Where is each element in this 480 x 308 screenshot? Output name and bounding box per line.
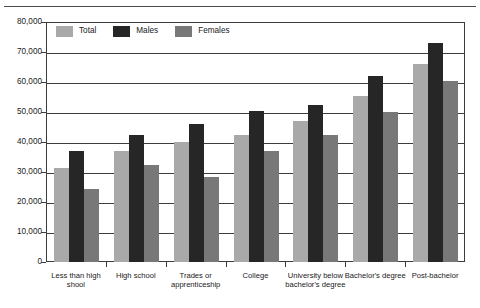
legend-swatch-icon — [56, 26, 73, 37]
legend-label: Males — [136, 27, 158, 35]
bar-males — [308, 105, 323, 263]
x-axis-tick-mark — [285, 262, 286, 267]
bar-females — [144, 165, 159, 263]
bar-total — [353, 96, 368, 263]
bar-females — [383, 112, 398, 262]
x-axis-tick-mark — [166, 262, 167, 267]
x-axis-tick-label: Less than high shool — [43, 271, 109, 290]
y-axis-tick-label: 80,000 — [0, 18, 42, 26]
x-axis-tick-label: University below bachelor's degree — [282, 271, 348, 290]
bar-group — [345, 22, 405, 262]
bar-females — [84, 189, 99, 263]
legend-item-males: Males — [113, 26, 158, 37]
bar-group — [166, 22, 226, 262]
bar-males — [189, 124, 204, 262]
bar-group — [285, 22, 345, 262]
bar-group — [106, 22, 166, 262]
bars-layer — [46, 22, 465, 262]
x-axis-tick-mark — [405, 262, 406, 267]
bar-total — [293, 121, 308, 262]
bar-males — [129, 135, 144, 263]
bar-total — [174, 142, 189, 262]
bar-females — [323, 135, 338, 263]
header-divider — [4, 6, 476, 7]
bar-total — [234, 135, 249, 263]
y-axis-tick-label: 30,000 — [0, 168, 42, 176]
bar-group — [46, 22, 106, 262]
y-axis-tick-label: 10,000 — [0, 228, 42, 236]
x-axis-tick-label: College — [223, 271, 289, 280]
legend-item-females: Females — [175, 26, 229, 37]
y-axis-tick-label: 40,000 — [0, 138, 42, 146]
x-axis-tick-label: High school — [103, 271, 169, 280]
bar-males — [249, 111, 264, 263]
y-axis-tick-label: 50,000 — [0, 108, 42, 116]
x-axis-tick-label: Trades or apprenticeship — [163, 271, 229, 290]
x-axis: Less than high shoolHigh schoolTrades or… — [46, 262, 465, 308]
x-axis-tick-mark — [345, 262, 346, 267]
bar-group — [226, 22, 286, 262]
bar-total — [54, 168, 69, 263]
bar-group — [405, 22, 465, 262]
legend-label: Females — [198, 27, 229, 35]
y-axis-tick-label: 60,000 — [0, 78, 42, 86]
bar-males — [69, 151, 84, 262]
legend-label: Total — [79, 27, 96, 35]
bar-females — [264, 151, 279, 262]
legend-swatch-icon — [113, 26, 130, 37]
x-axis-tick-mark — [106, 262, 107, 267]
legend-swatch-icon — [175, 26, 192, 37]
bar-males — [428, 43, 443, 262]
x-axis-tick-label: Bachelor's degree — [342, 271, 408, 280]
x-axis-tick-mark — [226, 262, 227, 267]
legend-item-total: Total — [56, 26, 96, 37]
bar-total — [114, 151, 129, 262]
y-axis-tick-label: 20,000 — [0, 198, 42, 206]
bar-males — [368, 76, 383, 262]
y-axis-tick-label: 0 — [0, 258, 42, 266]
bar-chart-figure: 010,00020,00030,00040,00050,00060,00070,… — [0, 0, 480, 308]
bar-total — [413, 64, 428, 262]
y-axis-tick-label: 70,000 — [0, 48, 42, 56]
bar-females — [204, 177, 219, 263]
bar-females — [443, 81, 458, 263]
chart-legend: TotalMalesFemales — [56, 26, 230, 37]
x-axis-tick-label: Post-bachelor — [402, 271, 468, 280]
